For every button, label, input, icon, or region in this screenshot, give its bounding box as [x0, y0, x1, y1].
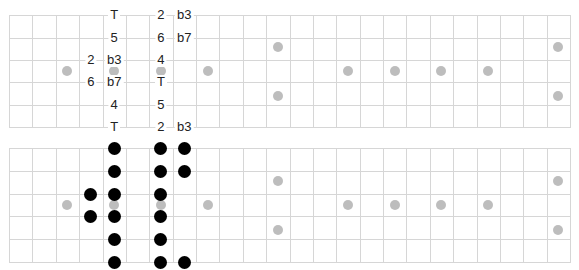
fret-line	[79, 15, 80, 128]
fret-line	[56, 15, 57, 128]
fret-line	[196, 15, 197, 128]
fret-line	[570, 15, 571, 128]
interval-label: T	[155, 75, 167, 89]
fret-inlay-dot-icon	[343, 200, 353, 210]
fret-line	[453, 15, 454, 128]
scale-note-dot-icon	[178, 142, 191, 155]
scale-note-dot-icon	[178, 165, 191, 178]
fret-inlay-double-dot-icon	[273, 42, 283, 52]
fret-inlay-double-dot-icon	[553, 91, 563, 101]
scale-note-dot-icon	[108, 142, 121, 155]
scale-note-dot-icon	[84, 210, 97, 223]
interval-label: b3	[105, 53, 123, 67]
fret-line	[570, 148, 571, 263]
string-line	[9, 127, 571, 128]
interval-label: 4	[109, 98, 120, 112]
fret-line	[126, 148, 127, 263]
fret-line	[266, 148, 267, 263]
fret-inlay-double-dot-icon	[273, 91, 283, 101]
fret-inlay-dot-icon	[203, 200, 213, 210]
fret-line	[523, 15, 524, 128]
fret-line	[313, 15, 314, 128]
fret-line	[243, 148, 244, 263]
fret-line	[406, 15, 407, 128]
fret-line	[196, 148, 197, 263]
string-line	[9, 171, 571, 172]
string-line	[9, 105, 571, 106]
fret-line	[500, 15, 501, 128]
fret-line	[243, 15, 244, 128]
scale-note-dot-icon	[108, 165, 121, 178]
fret-line	[290, 148, 291, 263]
fret-line	[383, 148, 384, 263]
fret-inlay-dot-icon	[343, 66, 353, 76]
interval-label: 6	[155, 31, 166, 45]
scale-note-dot-icon	[154, 233, 167, 246]
fret-line	[500, 148, 501, 263]
fret-line	[9, 148, 10, 263]
fret-line	[547, 148, 548, 263]
fret-inlay-dot-icon	[483, 200, 493, 210]
fret-line	[32, 15, 33, 128]
fret-line	[477, 15, 478, 128]
fret-line	[383, 15, 384, 128]
fret-inlay-dot-icon	[109, 200, 119, 210]
fret-line	[173, 15, 174, 128]
fret-line	[9, 15, 10, 128]
fret-line	[103, 148, 104, 263]
fret-inlay-double-dot-icon	[553, 225, 563, 235]
scale-note-dot-icon	[154, 165, 167, 178]
fret-inlay-dot-icon	[203, 66, 213, 76]
fret-line	[477, 148, 478, 263]
scale-note-dot-icon	[154, 188, 167, 201]
string-line	[9, 148, 571, 149]
fret-line	[219, 15, 220, 128]
fret-line	[430, 15, 431, 128]
scale-note-dot-icon	[108, 233, 121, 246]
string-line	[9, 239, 571, 240]
interval-label: 6	[85, 75, 96, 89]
fret-inlay-dot-icon	[483, 66, 493, 76]
interval-label: b3	[175, 120, 193, 134]
interval-label: 2	[155, 8, 166, 22]
fret-inlay-dot-icon	[436, 66, 446, 76]
fret-inlay-double-dot-icon	[273, 225, 283, 235]
fret-line	[173, 148, 174, 263]
fret-line	[547, 15, 548, 128]
interval-label: T	[108, 8, 120, 22]
scale-note-dot-icon	[154, 256, 167, 269]
fret-line	[336, 15, 337, 128]
fret-line	[149, 148, 150, 263]
interval-label: b7	[175, 31, 193, 45]
fret-inlay-double-dot-icon	[273, 176, 283, 186]
fret-line	[523, 148, 524, 263]
scale-note-dot-icon	[108, 210, 121, 223]
interval-label: b7	[105, 75, 123, 89]
string-line	[9, 38, 571, 39]
scale-note-dot-icon	[108, 256, 121, 269]
fret-line	[219, 148, 220, 263]
fret-line	[32, 148, 33, 263]
fret-line	[266, 15, 267, 128]
fret-line	[360, 15, 361, 128]
interval-label: 4	[155, 53, 166, 67]
fret-line	[290, 15, 291, 128]
interval-label: 2	[155, 120, 166, 134]
interval-label: 5	[155, 98, 166, 112]
fret-inlay-double-dot-icon	[553, 42, 563, 52]
fret-line	[360, 148, 361, 263]
fret-inlay-dot-icon	[62, 200, 72, 210]
interval-label: T	[108, 120, 120, 134]
scale-note-dot-icon	[178, 256, 191, 269]
fret-line	[126, 15, 127, 128]
fret-line	[406, 148, 407, 263]
fret-inlay-dot-icon	[156, 200, 166, 210]
interval-label: 5	[109, 31, 120, 45]
scale-note-dot-icon	[154, 210, 167, 223]
fret-inlay-dot-icon	[390, 66, 400, 76]
string-line	[9, 15, 571, 16]
fret-inlay-double-dot-icon	[553, 176, 563, 186]
fret-line	[313, 148, 314, 263]
fret-line	[56, 148, 57, 263]
interval-label: b3	[175, 8, 193, 22]
